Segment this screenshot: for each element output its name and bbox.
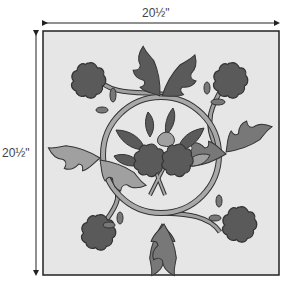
quilt-block-diagram — [0, 0, 286, 286]
